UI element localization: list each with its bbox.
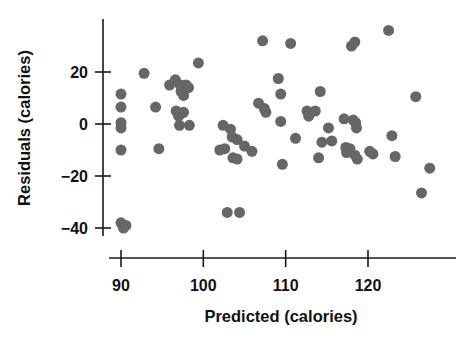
data-point [416,187,427,198]
data-point [150,102,161,113]
data-point [390,151,401,162]
residual-scatter-figure: 200−20−40 90100110120 Predicted (calorie… [0,0,463,339]
data-point [116,145,127,156]
x-tick-label-100: 100 [190,277,217,294]
data-point [351,122,362,133]
data-point [310,106,321,117]
data-point [139,68,150,79]
data-point [275,89,286,100]
data-point [120,220,131,231]
y-axis-title: Residuals (calories) [15,50,33,206]
y-axis-tick-labels: 200−20−40 [61,64,88,237]
data-point [367,148,378,159]
data-point [315,86,326,97]
x-axis-tick-labels: 90100110120 [112,277,381,294]
data-point [277,159,288,170]
data-point [153,143,164,154]
data-point [232,154,243,165]
data-point [383,25,394,36]
data-point [257,35,268,46]
y-tick-label--40: −40 [61,220,88,237]
x-tick-label-120: 120 [355,277,382,294]
data-point [116,102,127,113]
data-point [285,38,296,49]
data-point [316,137,327,148]
data-point [352,154,363,165]
scatter-plot-canvas: 200−20−40 90100110120 Predicted (calorie… [0,0,463,339]
y-tick-label-20: 20 [70,64,88,81]
data-point [219,143,230,154]
x-axis: 90100110120 [109,250,456,294]
data-points-layer [116,25,436,234]
data-point [424,163,435,174]
x-tick-label-90: 90 [112,277,130,294]
data-point [183,82,194,93]
data-point [386,130,397,141]
data-point [222,207,233,218]
data-point [410,91,421,102]
data-point [246,146,257,157]
data-point [184,120,195,131]
data-point [178,107,189,118]
data-point [349,37,360,48]
data-point [275,116,286,127]
y-axis: 200−20−40 [61,19,111,237]
data-point [116,89,127,100]
data-point [323,122,334,133]
data-point [326,135,337,146]
data-point [116,122,127,133]
data-point [174,120,185,131]
y-tick-label--20: −20 [61,168,88,185]
data-point [234,207,245,218]
data-point [290,133,301,144]
x-axis-title: Predicted (calories) [204,307,357,325]
y-tick-label-0: 0 [79,116,88,133]
data-point [260,107,271,118]
x-tick-label-110: 110 [273,277,299,294]
data-point [313,152,324,163]
data-point [193,57,204,68]
data-point [273,73,284,84]
